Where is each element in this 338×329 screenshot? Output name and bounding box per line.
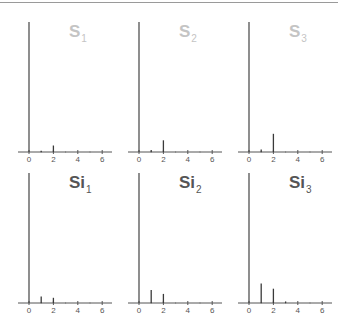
bar-chart-panel: 0246 [0,0,338,329]
x-tick-label: 4 [296,306,301,315]
x-tick-label: 6 [320,306,325,315]
panel-title-text: Si [289,173,305,192]
panel-title: Si3 [289,174,312,198]
x-tick-label: 2 [271,306,276,315]
x-tick-label: 0 [247,306,252,315]
panel-title-subscript: 3 [306,184,312,195]
